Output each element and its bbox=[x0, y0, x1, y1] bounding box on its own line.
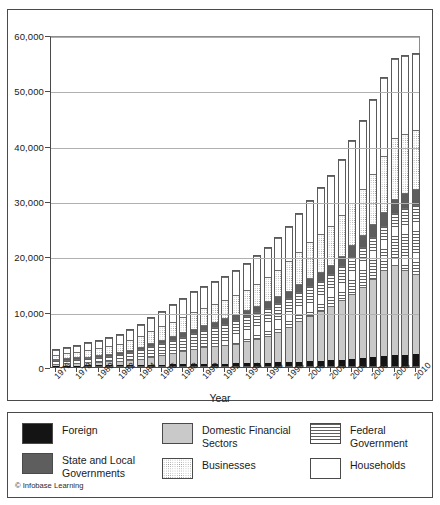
legend-item-businesses: Businesses bbox=[162, 458, 312, 479]
bar-segment-federal-government bbox=[233, 320, 239, 344]
white-swatch-icon bbox=[310, 458, 341, 479]
bar-segment-households bbox=[392, 59, 398, 138]
y-axis-tick-label: 60,000 bbox=[14, 31, 44, 42]
bar-segment-businesses bbox=[127, 340, 133, 349]
bar-segment-businesses bbox=[254, 284, 260, 306]
horizontal-lines-swatch-icon bbox=[310, 423, 341, 444]
x-axis-title: Year bbox=[0, 392, 440, 404]
bar-segment-households bbox=[96, 341, 102, 349]
bar-segment-businesses bbox=[117, 344, 123, 352]
bar-segment-federal-government bbox=[127, 352, 133, 360]
bar-segment-households bbox=[328, 176, 334, 226]
bar-segment-households bbox=[191, 292, 197, 312]
bar-segment-foreign bbox=[349, 359, 355, 366]
gridline bbox=[51, 203, 419, 204]
bar-segment-households bbox=[212, 282, 218, 304]
bar-segment-businesses bbox=[275, 270, 281, 296]
bar-segment-foreign bbox=[413, 354, 419, 366]
bar-segment-state-and-local-governments bbox=[328, 265, 334, 275]
bar-segment-foreign bbox=[244, 363, 250, 366]
bar-segment-businesses bbox=[244, 290, 250, 310]
y-axis-tick-mark bbox=[45, 368, 50, 369]
bar-segment-foreign bbox=[96, 365, 102, 366]
y-axis-tick-label: 30,000 bbox=[14, 197, 44, 208]
bar-1999 bbox=[295, 213, 303, 367]
bar-segment-federal-government bbox=[201, 330, 207, 347]
bar-segment-domestic-financial-sectors bbox=[180, 351, 186, 364]
legend-label: Foreign bbox=[62, 423, 98, 437]
legend-column-3: Federal Government Households bbox=[310, 423, 440, 488]
bar-1986 bbox=[158, 311, 166, 367]
bar-1989 bbox=[190, 291, 198, 367]
bar-segment-domestic-financial-sectors bbox=[296, 321, 302, 362]
bar-segment-foreign bbox=[286, 362, 292, 366]
y-axis-tick-label: 20,000 bbox=[14, 252, 44, 263]
gridline bbox=[51, 37, 419, 38]
solid-black-swatch-icon bbox=[22, 423, 53, 444]
bar-1978 bbox=[73, 345, 81, 367]
bar-segment-households bbox=[275, 238, 281, 270]
y-axis-tick-mark bbox=[45, 91, 50, 92]
bar-segment-domestic-financial-sectors bbox=[222, 345, 228, 364]
bar-segment-domestic-financial-sectors bbox=[159, 355, 165, 364]
bar-segment-federal-government bbox=[180, 337, 186, 351]
bar-1995 bbox=[253, 255, 261, 367]
bar-segment-foreign bbox=[180, 364, 186, 366]
bar-segment-federal-government bbox=[318, 281, 324, 311]
bar-segment-businesses bbox=[349, 203, 355, 246]
legend-column-2: Domestic Financial Sectors Businesses bbox=[162, 423, 312, 488]
bar-segment-domestic-financial-sectors bbox=[318, 311, 324, 361]
bar-segment-households bbox=[127, 330, 133, 340]
bar-segment-businesses bbox=[233, 295, 239, 314]
bar-segment-households bbox=[286, 227, 292, 262]
bar-segment-domestic-financial-sectors bbox=[201, 347, 207, 364]
bar-segment-households bbox=[85, 343, 91, 350]
bar-segment-state-and-local-governments bbox=[349, 245, 355, 256]
bar-segment-businesses bbox=[296, 252, 302, 285]
bar-1992 bbox=[221, 276, 229, 367]
bar-segment-federal-government bbox=[328, 274, 334, 306]
bar-1993 bbox=[232, 270, 240, 367]
bar-segment-federal-government bbox=[148, 346, 154, 357]
bar-segment-businesses bbox=[222, 300, 228, 318]
bar-segment-households bbox=[318, 188, 324, 233]
bar-segment-federal-government bbox=[159, 343, 165, 355]
legend-label: Businesses bbox=[202, 458, 256, 472]
bar-2004 bbox=[348, 140, 356, 367]
gridline bbox=[51, 258, 419, 259]
y-axis-tick-label: 50,000 bbox=[14, 86, 44, 97]
bar-segment-foreign bbox=[328, 360, 334, 366]
bar-segment-domestic-financial-sectors bbox=[265, 336, 271, 363]
bar-1988 bbox=[179, 298, 187, 367]
bar-segment-domestic-financial-sectors bbox=[370, 279, 376, 358]
bar-segment-foreign bbox=[159, 365, 165, 366]
bar-segment-state-and-local-governments bbox=[307, 278, 313, 286]
bar-1996 bbox=[264, 247, 272, 367]
bar-segment-state-and-local-governments bbox=[360, 235, 366, 247]
bar-1976 bbox=[52, 349, 60, 367]
bar-segment-federal-government bbox=[138, 349, 144, 358]
bar-2000 bbox=[306, 200, 314, 367]
bar-segment-businesses bbox=[180, 317, 186, 333]
bar-segment-federal-government bbox=[222, 324, 228, 346]
bar-segment-businesses bbox=[339, 215, 345, 255]
bar-segment-federal-government bbox=[244, 316, 250, 341]
bar-segment-federal-government bbox=[296, 292, 302, 321]
bar-segment-businesses bbox=[106, 346, 112, 354]
legend-label: State and Local Governments bbox=[62, 453, 135, 479]
bar-segment-households bbox=[201, 287, 207, 308]
bar-segment-state-and-local-governments bbox=[296, 284, 302, 292]
bar-segment-households bbox=[148, 318, 154, 331]
bar-segment-domestic-financial-sectors bbox=[360, 287, 366, 358]
bar-segment-foreign bbox=[307, 361, 313, 366]
bar-segment-households bbox=[233, 271, 239, 295]
bar-segment-households bbox=[381, 78, 387, 157]
solid-dark-gray-swatch-icon bbox=[22, 453, 53, 474]
bar-segment-households bbox=[265, 248, 271, 278]
chart-figure: 010,00020,00030,00040,00050,00060,000 19… bbox=[0, 0, 440, 505]
bar-segment-households bbox=[244, 264, 250, 290]
bar-segment-households bbox=[360, 121, 366, 189]
bar-segment-domestic-financial-sectors bbox=[339, 300, 345, 359]
y-axis-tick-mark bbox=[45, 147, 50, 148]
bar-segment-households bbox=[296, 214, 302, 252]
